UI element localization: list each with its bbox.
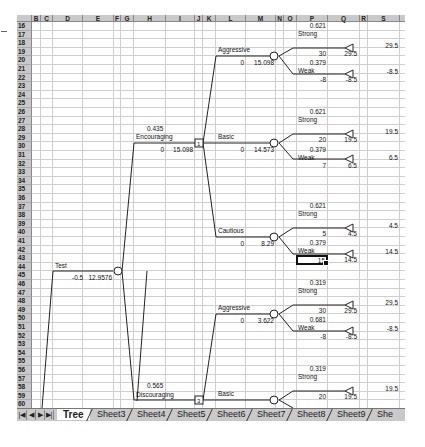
branch-prob: 0.435 [147, 125, 163, 133]
outcome-cumulative: -8.5 [328, 333, 357, 341]
root-cost: -0.5 [72, 274, 82, 282]
outcome-payoff: 7 [297, 162, 326, 170]
tab-sheet8[interactable]: Sheet8 [291, 409, 332, 420]
outcome-prob: 0.621 [297, 108, 326, 116]
branch-label: Encouraging [136, 133, 173, 141]
outcome-cumulative: 29.5 [328, 307, 357, 315]
outcome-cumulative: -8.5 [328, 76, 357, 84]
outcome-label: Strong [298, 287, 317, 295]
option-value: 3.622 [246, 317, 274, 325]
option-label: Basic [218, 133, 234, 141]
outcome-payoff: 20 [297, 136, 326, 144]
decision-tree-diagram: 1 3 [17, 15, 405, 408]
branch-value: 15.098 [165, 146, 193, 154]
option-cost: 0 [216, 317, 244, 325]
root-label: Test [55, 262, 67, 270]
option-label: Aggressive [218, 304, 250, 312]
next-sheet-button[interactable]: ▶ [36, 410, 45, 420]
first-sheet-button[interactable]: |◀ [18, 410, 27, 420]
outcome-label: Weak [298, 247, 315, 255]
tab-sheet7[interactable]: Sheet7 [251, 409, 292, 420]
outcome-label: Weak [298, 324, 315, 332]
outcome-cumulative: 19.5 [328, 393, 357, 401]
option-value: 8.29 [246, 240, 274, 248]
terminal-value: 19.5 [368, 128, 398, 136]
tab-sheet4[interactable]: Sheet4 [131, 409, 172, 420]
terminal-value: 14.5 [368, 248, 398, 256]
outcome-cumulative: 14.5 [328, 256, 357, 264]
option-label: Cautious [218, 227, 244, 235]
outcome-label: Strong [298, 210, 317, 218]
terminal-value: 19.5 [368, 385, 398, 393]
outcome-prob: 0.379 [297, 59, 326, 67]
tab-sheet5[interactable]: Sheet5 [171, 409, 212, 420]
selected-cell-value[interactable]: 15 [298, 257, 325, 265]
outcome-prob: 0.379 [297, 239, 326, 247]
outcome-cumulative: 19.5 [328, 136, 357, 144]
terminal-value: 29.5 [368, 299, 398, 307]
option-cost: 0 [216, 146, 244, 154]
outcome-prob: 0.319 [297, 279, 326, 287]
tab-tree[interactable]: Tree [57, 409, 90, 420]
outcome-label: Weak [298, 67, 315, 75]
last-sheet-button[interactable]: ▶| [45, 410, 54, 420]
option-value: 15.098 [246, 59, 274, 67]
outcome-label: Strong [298, 373, 317, 381]
terminal-value: 4.5 [368, 222, 398, 230]
outcome-prob: 0.681 [297, 316, 326, 324]
outcome-label: Strong [298, 116, 317, 124]
outcome-label: Strong [298, 30, 317, 38]
chance-node-icon [270, 396, 278, 404]
option-label: Basic [218, 390, 234, 398]
outcome-payoff: -8 [297, 76, 326, 84]
terminal-value: -8.5 [368, 325, 398, 333]
branch-prob: 0.565 [147, 382, 163, 390]
option-cost: 0 [216, 240, 244, 248]
outcome-label: Weak [298, 154, 315, 162]
branch-cost: 0 [134, 146, 164, 154]
sheet-tab-bar: |◀ ◀ ▶ ▶| Tree Sheet3 Sheet4 Sheet5 Shee… [17, 408, 405, 421]
outcome-cumulative: 6.5 [328, 162, 357, 170]
option-label: Aggressive [218, 46, 250, 54]
terminal-value: 29.5 [368, 42, 398, 50]
outcome-payoff: 30 [297, 307, 326, 315]
tab-sheet-partial[interactable]: She [371, 409, 399, 420]
outcome-cumulative: 4.5 [328, 230, 357, 238]
tab-sheet3[interactable]: Sheet3 [91, 409, 132, 420]
prev-sheet-button[interactable]: ◀ [27, 410, 36, 420]
outcome-prob: 0.379 [297, 146, 326, 154]
tab-sheet6[interactable]: Sheet6 [211, 409, 252, 420]
terminal-value: 6.5 [368, 154, 398, 162]
option-value: 14.573 [246, 146, 274, 154]
outcome-prob: 0.621 [297, 202, 326, 210]
root-value: 12.9576 [83, 274, 112, 282]
outcome-prob: 0.621 [297, 22, 326, 30]
tab-sheet9[interactable]: Sheet9 [331, 409, 372, 420]
chance-node-icon [114, 267, 122, 275]
worksheet-grid[interactable]: B C D E F G H I J K L M N O P Q R S 1617… [17, 15, 405, 408]
terminal-value: -8.5 [368, 68, 398, 76]
outcome-payoff: 30 [297, 50, 326, 58]
outcome-payoff: 20 [297, 393, 326, 401]
outcome-cumulative: 29.5 [328, 50, 357, 58]
selected-cell-P44[interactable]: 15 [296, 255, 328, 265]
outcome-payoff: -8 [297, 333, 326, 341]
outcome-prob: 0.319 [297, 365, 326, 373]
outcome-payoff: 5 [297, 230, 326, 238]
option-cost: 0 [216, 59, 244, 67]
branch-label: Discouraging [136, 391, 174, 399]
margin-mark [1, 31, 7, 32]
